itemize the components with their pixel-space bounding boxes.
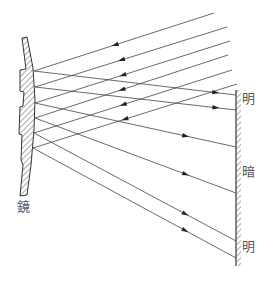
label-dark: 暗 xyxy=(242,165,255,178)
label-bright-bottom: 明 xyxy=(242,240,255,253)
rays xyxy=(33,13,237,258)
reflected-ray xyxy=(35,103,236,147)
arrowhead-icon xyxy=(112,42,119,46)
arrowhead-icon xyxy=(119,86,126,90)
arrowhead-icon xyxy=(120,101,127,105)
incoming-ray xyxy=(35,55,228,118)
incoming-ray xyxy=(34,13,214,71)
arrowhead-icon xyxy=(181,210,188,215)
arrowhead-icon xyxy=(212,105,219,109)
diagram-canvas xyxy=(0,0,277,286)
mirror xyxy=(19,37,35,196)
reflected-ray xyxy=(34,133,236,241)
reflected-ray xyxy=(35,118,236,193)
reflected-ray xyxy=(35,87,236,110)
reflected-ray xyxy=(33,148,236,258)
arrowhead-icon xyxy=(181,227,188,232)
arrowhead-icon xyxy=(182,171,189,176)
incoming-ray xyxy=(34,70,232,133)
arrowhead-icon xyxy=(119,72,126,76)
arrowhead-icon xyxy=(121,116,128,120)
incoming-ray xyxy=(35,41,230,103)
label-mirror: 鏡 xyxy=(17,200,30,213)
screen xyxy=(236,90,241,266)
optics-diagram: 明 暗 明 鏡 xyxy=(0,0,277,286)
incoming-ray xyxy=(35,27,227,87)
arrowhead-icon xyxy=(182,133,189,137)
reflected-ray xyxy=(34,71,236,95)
arrowhead-icon xyxy=(118,57,125,61)
label-bright-top: 明 xyxy=(242,92,255,105)
